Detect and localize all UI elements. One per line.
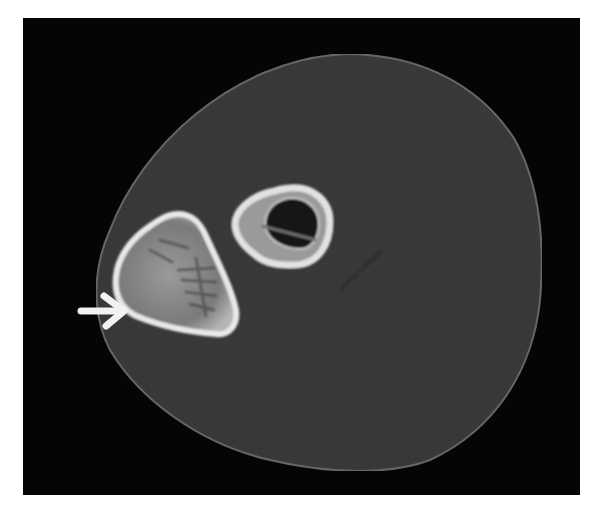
ct-scan-image (0, 0, 601, 517)
small-bone (235, 188, 330, 265)
